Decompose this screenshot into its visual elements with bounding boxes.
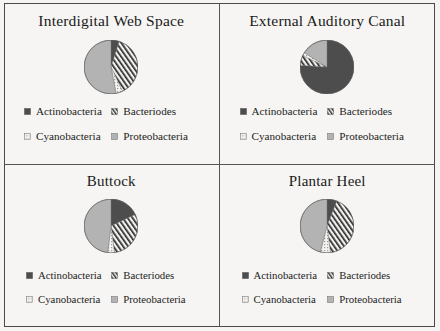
legend-label: Cyanobacteria — [38, 294, 100, 305]
panel-interdigital-web-space: Interdigital Web Space ActinobacteriaBac… — [4, 3, 220, 165]
legend-swatch-bacteriodes-icon — [111, 108, 118, 115]
pie-chart-external-auditory-canal — [220, 40, 436, 94]
legend-swatch-bacteriodes-icon — [111, 272, 118, 279]
legend-label: Proteobacteria — [339, 294, 401, 305]
legend-label: Proteobacteria — [339, 131, 404, 142]
legend-label: Actinobacteria — [254, 270, 318, 281]
legend-plantar-heel: ActinobacteriaBacteriodesCyanobacteriaPr… — [220, 270, 436, 305]
legend-swatch-proteobacteria-icon — [327, 296, 334, 303]
pie-svg — [300, 199, 354, 253]
legend-swatch-proteobacteria-icon — [327, 133, 334, 140]
legend-item-actinobacteria[interactable]: Actinobacteria — [26, 270, 102, 281]
legend-label: Bacteriodes — [339, 270, 390, 281]
legend-label: Proteobacteria — [123, 294, 185, 305]
legend-label: Bacteriodes — [123, 270, 174, 281]
legend-label: Bacteriodes — [123, 106, 176, 117]
panel-title: Interdigital Web Space — [4, 12, 219, 30]
legend-item-cyanobacteria[interactable]: Cyanobacteria — [16, 131, 101, 142]
pie-slice-proteobacteria — [84, 199, 111, 253]
legend-label: Proteobacteria — [123, 131, 188, 142]
legend-item-actinobacteria[interactable]: Actinobacteria — [16, 106, 102, 117]
panel-title: Buttock — [4, 173, 219, 190]
panel-buttock: Buttock ActinobacteriaBacteriodesCyanoba… — [4, 165, 220, 327]
legend-item-proteobacteria[interactable]: Proteobacteria — [111, 294, 185, 305]
legend-item-bacteriodes[interactable]: Bacteriodes — [327, 270, 390, 281]
legend-label: Actinobacteria — [38, 270, 102, 281]
legend-item-proteobacteria[interactable]: Proteobacteria — [327, 294, 401, 305]
legend-swatch-actinobacteria-icon — [240, 108, 247, 115]
legend-swatch-actinobacteria-icon — [242, 272, 249, 279]
pie-svg — [84, 199, 138, 253]
legend-swatch-bacteriodes-icon — [327, 272, 334, 279]
legend-swatch-cyanobacteria-icon — [24, 133, 31, 140]
legend-item-proteobacteria[interactable]: Proteobacteria — [327, 131, 404, 142]
legend-label: Cyanobacteria — [254, 294, 316, 305]
legend-item-actinobacteria[interactable]: Actinobacteria — [232, 106, 318, 117]
pie-chart-buttock — [4, 199, 219, 253]
legend-item-bacteriodes[interactable]: Bacteriodes — [327, 106, 392, 117]
legend-swatch-proteobacteria-icon — [111, 296, 118, 303]
legend-item-actinobacteria[interactable]: Actinobacteria — [242, 270, 318, 281]
pie-chart-interdigital-web-space — [4, 40, 219, 94]
legend-swatch-proteobacteria-icon — [111, 133, 118, 140]
pie-svg — [300, 40, 354, 94]
pie-svg — [84, 40, 138, 94]
legend-external-auditory-canal: ActinobacteriaBacteriodesCyanobacteriaPr… — [220, 106, 436, 142]
legend-interdigital-web-space: ActinobacteriaBacteriodesCyanobacteriaPr… — [4, 106, 219, 142]
panel-external-auditory-canal: External Auditory Canal ActinobacteriaBa… — [220, 3, 436, 165]
legend-swatch-cyanobacteria-icon — [242, 296, 249, 303]
panel-title: External Auditory Canal — [220, 12, 436, 30]
legend-item-bacteriodes[interactable]: Bacteriodes — [111, 106, 176, 117]
legend-item-cyanobacteria[interactable]: Cyanobacteria — [26, 294, 100, 305]
legend-item-proteobacteria[interactable]: Proteobacteria — [111, 131, 188, 142]
legend-swatch-cyanobacteria-icon — [26, 296, 33, 303]
legend-buttock: ActinobacteriaBacteriodesCyanobacteriaPr… — [4, 270, 219, 305]
legend-item-bacteriodes[interactable]: Bacteriodes — [111, 270, 174, 281]
legend-label: Cyanobacteria — [36, 131, 101, 142]
panel-plantar-heel: Plantar Heel ActinobacteriaBacteriodesCy… — [220, 165, 436, 327]
legend-label: Cyanobacteria — [252, 131, 317, 142]
legend-item-cyanobacteria[interactable]: Cyanobacteria — [232, 131, 317, 142]
legend-swatch-cyanobacteria-icon — [240, 133, 247, 140]
panel-grid: Interdigital Web Space ActinobacteriaBac… — [4, 3, 435, 327]
figure-root: Interdigital Web Space ActinobacteriaBac… — [0, 0, 440, 331]
legend-item-cyanobacteria[interactable]: Cyanobacteria — [242, 294, 316, 305]
pie-chart-plantar-heel — [220, 199, 436, 253]
legend-label: Actinobacteria — [36, 106, 102, 117]
panel-title: Plantar Heel — [220, 173, 436, 190]
legend-swatch-actinobacteria-icon — [24, 108, 31, 115]
legend-swatch-actinobacteria-icon — [26, 272, 33, 279]
legend-label: Bacteriodes — [339, 106, 392, 117]
legend-label: Actinobacteria — [252, 106, 318, 117]
legend-swatch-bacteriodes-icon — [327, 108, 334, 115]
